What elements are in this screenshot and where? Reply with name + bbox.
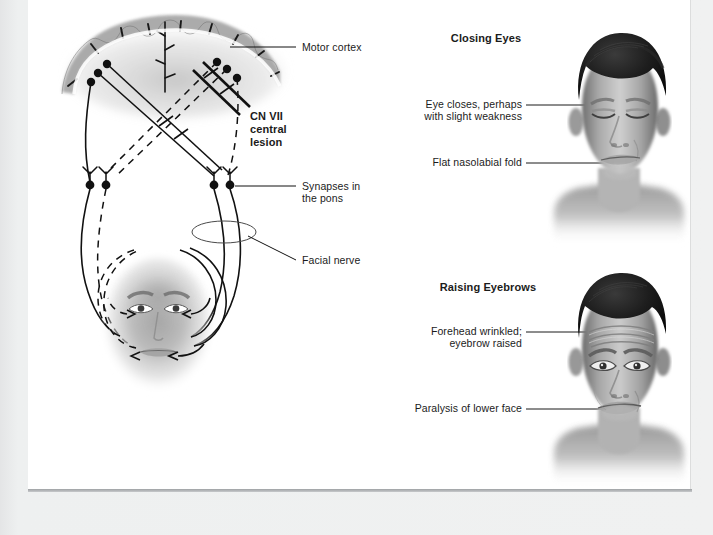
closing-eyes-panel: Closing Eyes Eye closes, perhaps with sl… <box>358 0 690 250</box>
closing-eyes-portrait <box>554 33 684 244</box>
pons-synapses <box>83 167 237 189</box>
label-synapses-line2: the pons <box>302 192 343 205</box>
motor-cortex-structure <box>62 15 286 118</box>
label-facial-nerve: Facial nerve <box>302 254 360 267</box>
schematic-face <box>102 257 214 397</box>
label-motor-cortex: Motor cortex <box>302 41 362 54</box>
raising-eyebrows-portrait <box>554 273 684 486</box>
raising-eyebrows-panel: Raising Eyebrows Forehead wrinkled; eyeb… <box>358 250 690 489</box>
corticobulbar-pathway-diagram: Motor cortex CN VII central lesion Synap… <box>28 0 358 420</box>
label-synapses-line1: Synapses in <box>302 180 360 193</box>
label-cn-vii-lesion-line2: central <box>250 123 287 136</box>
figure-page: Motor cortex CN VII central lesion Synap… <box>28 0 690 489</box>
label-cn-vii-lesion-line3: lesion <box>250 136 282 149</box>
label-cn-vii-lesion-line1: CN VII <box>250 110 283 123</box>
leader-facial-nerve <box>248 236 296 260</box>
